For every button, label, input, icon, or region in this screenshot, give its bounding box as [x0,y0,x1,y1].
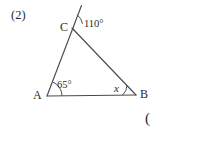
vertex-label-c: C [60,21,68,33]
segment-cb [72,28,136,95]
angle-arc-b [123,85,128,95]
vertex-label-a: A [33,89,42,101]
angle-measure-c: 110° [84,19,104,30]
answer-open-paren: ( [145,111,150,126]
problem-number-label: (2) [11,9,26,22]
vertex-label-b: B [140,88,148,100]
geometry-figure [0,0,210,143]
angle-measure-b-unknown: x [114,83,119,94]
angle-measure-a: 65° [57,80,72,91]
worksheet-page: (2) C A B 110° 65° x ( [0,0,210,143]
